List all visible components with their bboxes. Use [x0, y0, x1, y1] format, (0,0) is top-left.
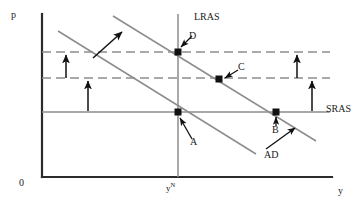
point-label-d: D — [189, 31, 196, 41]
origin-label: 0 — [19, 178, 24, 188]
point-marker-a — [175, 109, 182, 116]
point-marker-c — [216, 76, 223, 83]
ad-curve-label: AD — [264, 150, 278, 160]
point-label-c: C — [238, 62, 245, 72]
ad-as-diagram: p 0 y yN LRAS SRAS AD A B C D — [0, 0, 364, 209]
lras-curve-label: LRAS — [194, 12, 220, 22]
pointer-arrow-from-ad-label — [266, 128, 295, 149]
pointer-arrow-to-point-c — [225, 70, 238, 78]
axis-group — [42, 14, 332, 177]
dashed-price-levels — [42, 52, 330, 78]
point-label-b: B — [272, 125, 279, 135]
point-markers — [175, 49, 280, 116]
point-marker-d — [175, 49, 182, 56]
diagram-canvas — [0, 0, 364, 209]
sras-curve-label: SRAS — [326, 104, 351, 114]
y-axis-label: p — [11, 10, 16, 20]
x-axis-tick-label-y-natural: yN — [166, 184, 175, 193]
point-label-a: A — [190, 137, 197, 147]
ad-shift-arrow — [93, 32, 122, 58]
point-marker-b — [273, 109, 280, 116]
x-axis-label: y — [338, 186, 343, 196]
x-tick-superscript: N — [171, 181, 176, 188]
